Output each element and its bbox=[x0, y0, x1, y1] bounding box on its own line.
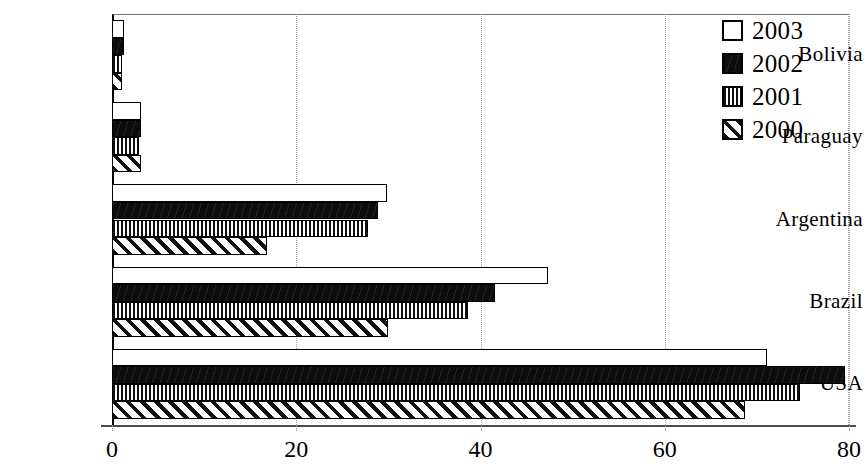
legend-swatch-icon bbox=[722, 119, 743, 140]
legend-label: 2001 bbox=[752, 84, 803, 109]
bar-brazil-2003 bbox=[112, 267, 548, 285]
legend-swatch-icon bbox=[722, 53, 743, 74]
bar-paraguay-2000 bbox=[112, 155, 141, 173]
bar-argentina-2002 bbox=[112, 202, 378, 220]
bar-usa-2003 bbox=[112, 349, 767, 367]
bar-usa-2001 bbox=[112, 384, 800, 402]
x-tick-label: 0 bbox=[82, 436, 142, 462]
category-label-brazil: Brazil bbox=[759, 291, 863, 312]
bar-brazil-2000 bbox=[112, 319, 388, 337]
legend-item-2000[interactable]: 2000 bbox=[722, 113, 842, 146]
x-axis-line bbox=[101, 425, 856, 427]
x-tick-label: 60 bbox=[635, 436, 695, 462]
legend-label: 2000 bbox=[752, 117, 803, 142]
legend-swatch-icon bbox=[722, 86, 743, 107]
legend-label: 2003 bbox=[752, 18, 803, 43]
legend-swatch-icon bbox=[722, 20, 743, 41]
bar-paraguay-2002 bbox=[112, 120, 141, 138]
bar-brazil-2001 bbox=[112, 302, 468, 320]
bar-paraguay-2003 bbox=[112, 102, 141, 120]
legend-item-2002[interactable]: 2002 bbox=[722, 47, 842, 80]
bar-argentina-2003 bbox=[112, 184, 387, 202]
bar-argentina-2000 bbox=[112, 237, 267, 255]
legend-label: 2002 bbox=[752, 51, 803, 76]
bar-bolivia-2000 bbox=[112, 73, 122, 91]
bar-usa-2002 bbox=[112, 366, 845, 384]
bar-bolivia-2001 bbox=[112, 55, 122, 73]
x-tick bbox=[296, 425, 297, 431]
x-tick bbox=[112, 425, 113, 431]
bar-paraguay-2001 bbox=[112, 137, 139, 155]
legend-item-2001[interactable]: 2001 bbox=[722, 80, 842, 113]
legend: 2003200220012000 bbox=[722, 14, 842, 146]
bar-argentina-2001 bbox=[112, 220, 368, 238]
bar-usa-2000 bbox=[112, 401, 745, 419]
bar-brazil-2002 bbox=[112, 284, 495, 302]
x-tick-label: 20 bbox=[266, 436, 326, 462]
category-label-argentina: Argentina bbox=[759, 209, 863, 230]
x-tick-label: 80 bbox=[819, 436, 868, 462]
x-tick bbox=[481, 425, 482, 431]
bar-bolivia-2002 bbox=[112, 38, 124, 56]
bar-bolivia-2003 bbox=[112, 20, 124, 38]
legend-item-2003[interactable]: 2003 bbox=[722, 14, 842, 47]
x-tick-label: 40 bbox=[451, 436, 511, 462]
x-tick bbox=[665, 425, 666, 431]
x-tick bbox=[849, 425, 850, 431]
